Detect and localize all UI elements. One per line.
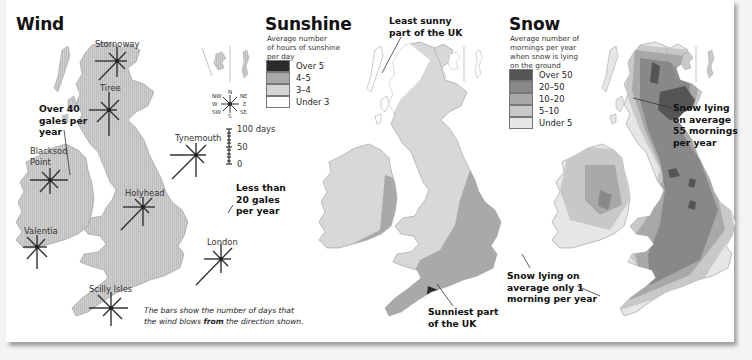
snow-note-least: Snow lying on average only 1 morning per… xyxy=(507,270,597,305)
station-label-stornoway: Stornoway xyxy=(95,39,139,49)
legend-item: Under 3 xyxy=(266,96,329,108)
legend-item: Under 5 xyxy=(509,117,572,129)
station-label-blacksod-point: Blacksod Point xyxy=(30,146,70,168)
legend-item: 20–50 xyxy=(509,81,572,93)
compass-rose: N NE E SE S SW W NW xyxy=(210,92,250,118)
scale-label-100: 100 days xyxy=(237,124,275,134)
snow-title: Snow xyxy=(509,14,560,34)
wind-caption: The bars show the number of days that th… xyxy=(144,306,304,327)
scale-label-50: 50 xyxy=(237,142,248,152)
legend-item: 4–5 xyxy=(266,72,329,84)
station-label-holyhead: Holyhead xyxy=(125,188,165,198)
legend-item: 5–10 xyxy=(509,105,572,117)
sunshine-title: Sunshine xyxy=(265,14,352,34)
snow-legend: Over 50 20–50 10–20 5–10 Under 5 xyxy=(509,69,572,129)
sunshine-note-sunniest: Sunniest part of the UK xyxy=(428,306,498,329)
station-label-valentia: Valentia xyxy=(24,226,58,236)
wind-note-over-40: Over 40 gales per year xyxy=(39,103,87,138)
station-label-tynemouth: Tynemouth xyxy=(175,133,221,143)
station-label-tiree: Tiree xyxy=(100,83,121,93)
station-label-london: London xyxy=(207,237,238,247)
snow-note-most: Snow lying on average 55 mornings per ye… xyxy=(673,102,738,148)
snow-subtitle: Average number of mornings per year when… xyxy=(510,34,579,70)
legend-item: 10–20 xyxy=(509,93,572,105)
sunshine-legend: Over 5 4–5 3–4 Under 3 xyxy=(266,60,329,108)
legend-item: Over 50 xyxy=(509,69,572,81)
sunshine-note-least-sunny: Least sunny part of the UK xyxy=(389,15,462,38)
scale-label-0: 0 xyxy=(237,159,242,169)
legend-item: Over 5 xyxy=(266,60,329,72)
legend-item: 3–4 xyxy=(266,84,329,96)
station-label-scilly-isles: Scilly Isles xyxy=(89,284,132,294)
sunshine-subtitle: Average number of hours of sunshine per … xyxy=(267,34,340,61)
wind-note-less-20: Less than 20 gales per year xyxy=(236,182,286,217)
